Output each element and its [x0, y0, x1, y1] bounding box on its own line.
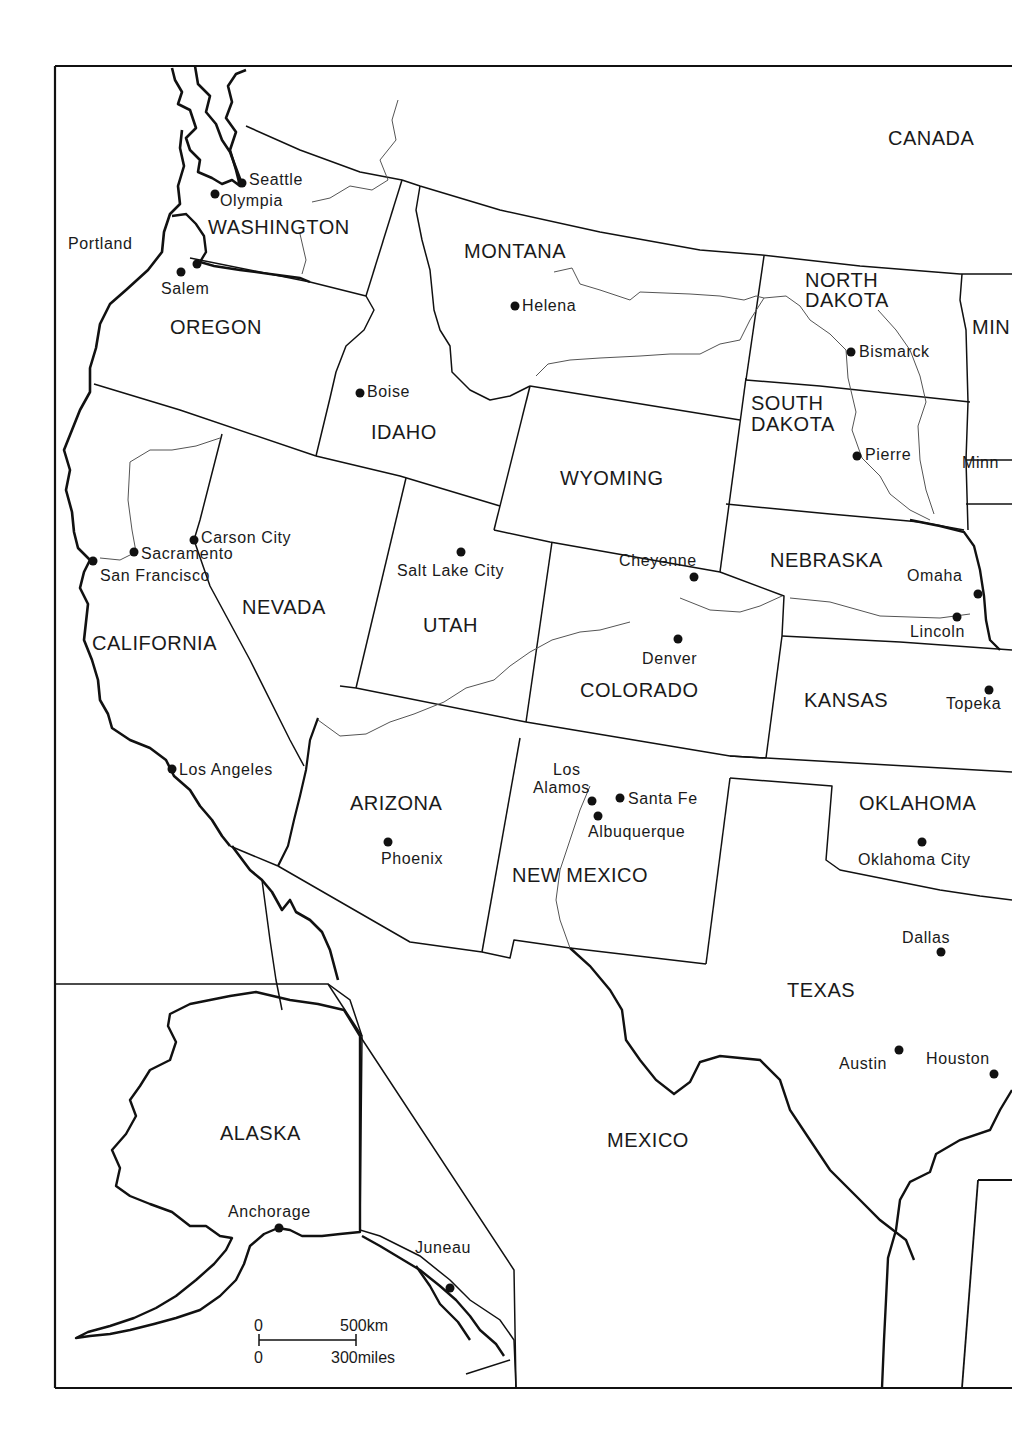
city-label-minneapolis-partial: Minn — [962, 455, 999, 471]
coastline — [64, 66, 338, 980]
city-label-oklahoma-city: Oklahoma City — [858, 852, 971, 868]
scale-bar-graphic — [259, 1334, 356, 1346]
city-dot-carson-city — [190, 536, 199, 545]
city-label-boise: Boise — [367, 384, 410, 400]
state-label-texas: TEXAS — [787, 980, 855, 1000]
city-dot-lincoln — [953, 613, 962, 622]
city-dot-omaha — [974, 590, 983, 599]
city-dot-boise — [356, 389, 365, 398]
country-label-canada: CANADA — [888, 128, 974, 148]
city-dot-oklahoma-city — [918, 838, 927, 847]
city-label-carson-city: Carson City — [201, 530, 291, 546]
city-dot-austin — [895, 1046, 904, 1055]
state-label-california: CALIFORNIA — [92, 633, 217, 653]
city-dot-portland — [193, 260, 202, 269]
city-dot-houston — [990, 1070, 999, 1079]
city-dot-salem — [177, 268, 186, 277]
city-label-seattle: Seattle — [249, 172, 303, 188]
state-label-south-dakota-line2: DAKOTA — [751, 414, 835, 434]
state-label-nebraska: NEBRASKA — [770, 550, 883, 570]
city-label-dallas: Dallas — [902, 930, 950, 946]
country-label-mexico: MEXICO — [607, 1130, 689, 1150]
city-label-helena: Helena — [522, 298, 576, 314]
scale-km-zero: 0 — [254, 1318, 263, 1334]
city-dot-dallas — [937, 948, 946, 957]
city-dot-sacramento — [130, 548, 139, 557]
state-label-colorado: COLORADO — [580, 680, 698, 700]
city-label-topeka: Topeka — [946, 696, 1001, 712]
state-label-montana: MONTANA — [464, 241, 566, 261]
state-label-south-dakota-line1: SOUTH — [751, 393, 824, 413]
state-label-oregon: OREGON — [170, 317, 262, 337]
state-label-new-mexico: NEW MEXICO — [512, 865, 648, 885]
city-label-bismarck: Bismarck — [859, 344, 930, 360]
state-label-nevada: NEVADA — [242, 597, 326, 617]
city-dot-san-francisco — [89, 557, 98, 566]
city-label-salem: Salem — [161, 281, 209, 297]
city-dot-denver — [674, 635, 683, 644]
state-label-minnesota-partial: MIN — [972, 317, 1010, 337]
alaska-outline — [76, 992, 504, 1356]
city-dot-anchorage — [275, 1224, 284, 1233]
city-label-los-alamos-line1: Los — [553, 762, 581, 778]
city-dot-salt-lake-city — [457, 548, 466, 557]
city-dot-juneau — [446, 1284, 455, 1293]
city-label-los-angeles: Los Angeles — [179, 762, 273, 778]
city-dot-los-angeles — [168, 765, 177, 774]
state-label-oklahoma: OKLAHOMA — [859, 793, 976, 813]
city-label-lincoln: Lincoln — [910, 624, 965, 640]
state-label-utah: UTAH — [423, 615, 478, 635]
city-label-pierre: Pierre — [865, 447, 911, 463]
city-label-olympia: Olympia — [220, 193, 283, 209]
gulf-inset-frame — [962, 1180, 1012, 1388]
city-label-salt-lake-city: Salt Lake City — [397, 563, 504, 579]
state-label-north-dakota-line2: DAKOTA — [805, 290, 889, 310]
city-label-sacramento: Sacramento — [141, 546, 233, 562]
city-label-santa-fe: Santa Fe — [628, 791, 698, 807]
city-label-omaha: Omaha — [907, 568, 962, 584]
city-dot-helena — [511, 302, 520, 311]
city-label-juneau: Juneau — [415, 1240, 471, 1256]
city-dot-olympia — [211, 190, 220, 199]
city-dot-phoenix — [384, 838, 393, 847]
state-label-alaska: ALASKA — [220, 1123, 301, 1143]
city-dot-pierre — [853, 452, 862, 461]
scale-miles-label: 300miles — [331, 1350, 395, 1366]
city-dot-seattle — [238, 179, 247, 188]
city-label-cheyenne: Cheyenne — [619, 553, 697, 569]
scale-km-label: 500km — [340, 1318, 388, 1334]
city-dot-santa-fe — [616, 794, 625, 803]
city-label-portland: Portland — [68, 236, 132, 252]
city-label-san-francisco: San Francisco — [100, 568, 210, 584]
state-label-kansas: KANSAS — [804, 690, 888, 710]
city-dot-bismarck — [847, 348, 856, 357]
state-label-arizona: ARIZONA — [350, 793, 442, 813]
city-label-denver: Denver — [642, 651, 697, 667]
gulf-coast — [882, 1090, 1012, 1388]
city-dot-los-alamos — [588, 797, 597, 806]
alaska-inset-frame — [55, 984, 516, 1388]
city-dot-cheyenne — [690, 573, 699, 582]
city-label-los-alamos-line2: Alamos — [533, 780, 590, 796]
state-label-north-dakota-line1: NORTH — [805, 270, 878, 290]
state-label-washington: WASHINGTON — [208, 217, 350, 237]
rio-grande — [570, 948, 914, 1260]
map-canvas — [0, 0, 1012, 1435]
city-label-anchorage: Anchorage — [228, 1204, 311, 1220]
scale-miles-zero: 0 — [254, 1350, 263, 1366]
state-label-wyoming: WYOMING — [560, 468, 664, 488]
city-label-albuquerque: Albuquerque — [588, 824, 685, 840]
city-label-austin: Austin — [839, 1056, 887, 1072]
colorado-river — [278, 718, 318, 866]
state-label-idaho: IDAHO — [371, 422, 437, 442]
city-dot-topeka — [985, 686, 994, 695]
city-label-phoenix: Phoenix — [381, 851, 443, 867]
city-label-houston: Houston — [926, 1051, 990, 1067]
city-dot-albuquerque — [594, 812, 603, 821]
